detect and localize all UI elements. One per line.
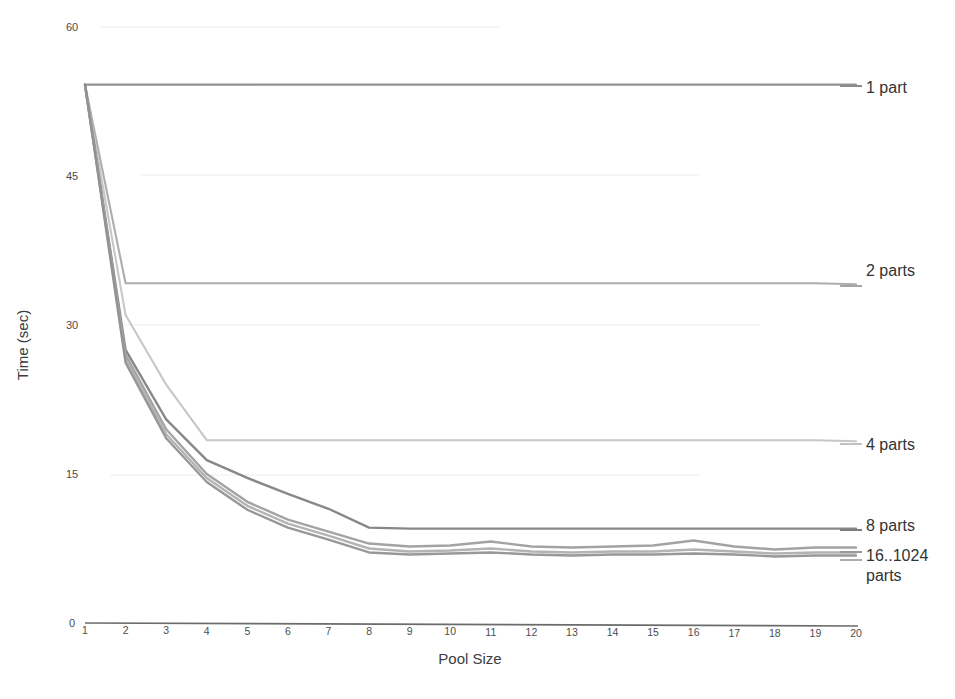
legend-label-4parts: 4 parts: [866, 436, 915, 453]
y-tick-15: 15: [66, 468, 78, 480]
x-tick-17: 17: [728, 627, 740, 639]
x-tick-16: 16: [688, 626, 700, 638]
y-tick-60: 60: [66, 21, 78, 33]
line-chart: 60 45 30 15 0 Time (sec) 123456789101112…: [0, 0, 955, 699]
x-tick-18: 18: [769, 627, 781, 639]
x-tick-2: 2: [123, 624, 129, 636]
series-line-8-parts: [85, 85, 856, 529]
y-tick-45: 45: [66, 170, 78, 182]
y-axis-title: Time (sec): [14, 310, 31, 380]
x-tick-9: 9: [407, 625, 413, 637]
x-tick-4: 4: [204, 625, 210, 637]
x-tick-1: 1: [82, 624, 88, 636]
y-tick-0: 0: [69, 617, 75, 629]
x-tick-6: 6: [285, 625, 291, 637]
x-tick-8: 8: [366, 625, 372, 637]
x-axis-line: [85, 623, 858, 626]
y-axis-tick-labels: 60 45 30 15 0: [66, 21, 78, 629]
legend-label-1part: 1 part: [866, 79, 907, 96]
x-tick-19: 19: [810, 627, 822, 639]
series-lines-group: [85, 85, 856, 557]
x-tick-13: 13: [566, 626, 578, 638]
series-line-4-parts: [85, 85, 856, 442]
faint-scan-gridlines: [100, 27, 760, 475]
x-tick-10: 10: [444, 625, 456, 637]
x-tick-3: 3: [163, 624, 169, 636]
x-tick-20: 20: [850, 627, 862, 639]
x-tick-11: 11: [485, 626, 496, 638]
y-tick-30: 30: [66, 319, 78, 331]
legend-label-2parts: 2 parts: [866, 262, 915, 279]
chart-container: 60 45 30 15 0 Time (sec) 123456789101112…: [0, 0, 955, 699]
legend-label-8parts: 8 parts: [866, 517, 915, 534]
series-line-2-parts: [85, 85, 856, 285]
legend-label-16to1024-line2: parts: [866, 567, 902, 584]
x-tick-7: 7: [326, 625, 332, 637]
series-line-16-1024-parts-c: [85, 85, 856, 557]
x-tick-5: 5: [244, 625, 250, 637]
x-tick-12: 12: [526, 626, 538, 638]
legend-group: 1 part 2 parts 4 parts 8 parts 16..1024 …: [840, 79, 928, 584]
x-axis-title: Pool Size: [438, 650, 501, 667]
series-line-16-1024-parts: [85, 85, 856, 550]
x-tick-14: 14: [607, 626, 619, 638]
legend-label-16to1024-line1: 16..1024: [866, 547, 928, 564]
series-line-16-1024-parts-b: [85, 85, 856, 554]
x-tick-15: 15: [647, 626, 659, 638]
